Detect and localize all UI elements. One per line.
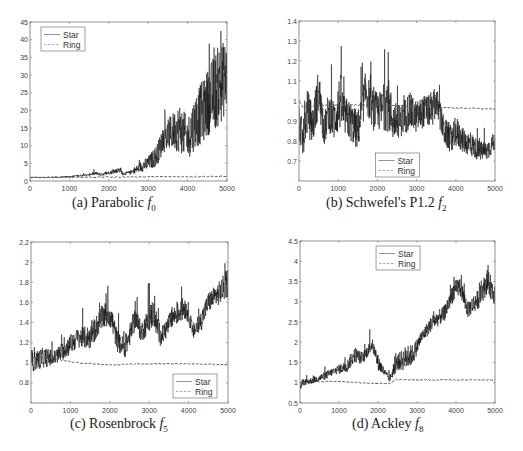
- svg-text:0.8: 0.8: [287, 138, 297, 145]
- chart-panel-b: 0100020003000400050000.70.80.911.11.21.3…: [299, 21, 495, 181]
- svg-text:0.9: 0.9: [287, 118, 297, 125]
- svg-text:5000: 5000: [487, 185, 503, 192]
- svg-text:1.1: 1.1: [287, 78, 297, 85]
- caption-d: (d) Ackley f8: [352, 416, 423, 434]
- svg-text:2.2: 2.2: [19, 239, 29, 246]
- svg-text:2000: 2000: [101, 185, 117, 192]
- svg-text:0: 0: [29, 407, 33, 414]
- svg-text:2000: 2000: [370, 407, 386, 414]
- caption-b-sub: 2: [442, 203, 447, 213]
- svg-text:3: 3: [294, 298, 298, 305]
- caption-d-sub: 8: [419, 424, 424, 434]
- svg-text:0: 0: [298, 407, 302, 414]
- svg-text:0.5: 0.5: [288, 400, 298, 407]
- svg-text:0: 0: [297, 185, 301, 192]
- svg-text:1.2: 1.2: [19, 339, 29, 346]
- svg-text:4000: 4000: [181, 407, 197, 414]
- svg-text:10: 10: [20, 142, 28, 149]
- chart-c-svg: 0100020003000400050000.811.21.41.61.822.…: [31, 242, 228, 403]
- svg-text:30: 30: [20, 72, 28, 79]
- caption-c: (c) Rosenbrock f5: [70, 416, 168, 434]
- series-ring-line: [300, 379, 495, 384]
- caption-a-text: (a) Parabolic: [72, 195, 147, 210]
- series-star-line: [31, 263, 228, 371]
- svg-text:3000: 3000: [409, 185, 425, 192]
- svg-text:2000: 2000: [102, 407, 118, 414]
- svg-text:2: 2: [294, 339, 298, 346]
- svg-text:3000: 3000: [140, 185, 156, 192]
- svg-text:5: 5: [24, 160, 28, 167]
- chart-b-svg: 0100020003000400050000.70.80.911.11.21.3…: [299, 21, 495, 181]
- svg-text:5000: 5000: [487, 407, 503, 414]
- svg-text:4000: 4000: [180, 185, 196, 192]
- svg-text:1: 1: [25, 359, 29, 366]
- svg-text:35: 35: [20, 54, 28, 61]
- svg-text:Ring: Ring: [397, 166, 415, 176]
- svg-text:2: 2: [25, 259, 29, 266]
- svg-text:1.4: 1.4: [287, 18, 297, 25]
- svg-text:5000: 5000: [220, 407, 236, 414]
- series-star-line: [299, 46, 495, 159]
- chart-d-legend: StarRing: [376, 246, 420, 270]
- svg-text:4000: 4000: [448, 185, 464, 192]
- svg-text:1000: 1000: [330, 185, 346, 192]
- svg-text:3000: 3000: [141, 407, 157, 414]
- caption-c-text: (c) Rosenbrock: [70, 416, 159, 431]
- svg-text:20: 20: [20, 107, 28, 114]
- svg-text:0: 0: [24, 178, 28, 185]
- series-star-line: [30, 31, 227, 178]
- chart-b-legend: StarRing: [375, 153, 419, 177]
- svg-text:1.2: 1.2: [287, 58, 297, 65]
- svg-text:Star: Star: [398, 249, 414, 259]
- chart-c-legend: StarRing: [173, 374, 217, 398]
- svg-text:0.8: 0.8: [19, 379, 29, 386]
- caption-d-text: (d) Ackley: [352, 416, 415, 431]
- svg-text:1000: 1000: [331, 407, 347, 414]
- caption-a: (a) Parabolic f0: [72, 195, 156, 213]
- svg-text:0.7: 0.7: [287, 158, 297, 165]
- svg-text:Ring: Ring: [63, 40, 81, 50]
- series-star-line: [300, 265, 495, 389]
- svg-text:Ring: Ring: [398, 259, 416, 269]
- chart-d-svg: 0100020003000400050000.511.522.533.544.5…: [300, 241, 495, 403]
- svg-text:1000: 1000: [63, 407, 79, 414]
- svg-text:3.5: 3.5: [288, 278, 298, 285]
- svg-text:15: 15: [20, 125, 28, 132]
- caption-b: (b) Schwefel's P1.2 f2: [326, 195, 447, 213]
- svg-text:Ring: Ring: [195, 387, 213, 397]
- svg-text:Star: Star: [195, 377, 211, 387]
- caption-c-sub: 5: [163, 424, 168, 434]
- svg-text:1.4: 1.4: [19, 319, 29, 326]
- chart-panel-c: 0100020003000400050000.811.21.41.61.822.…: [31, 242, 228, 403]
- svg-text:2000: 2000: [370, 185, 386, 192]
- chart-a-svg: 010002000300040005000051015202530354045S…: [30, 22, 227, 181]
- svg-text:2.5: 2.5: [288, 319, 298, 326]
- series-ring-line: [30, 176, 227, 178]
- svg-text:1.8: 1.8: [19, 279, 29, 286]
- svg-text:1: 1: [294, 379, 298, 386]
- svg-text:1.3: 1.3: [287, 38, 297, 45]
- chart-panel-d: 0100020003000400050000.511.522.533.544.5…: [300, 241, 495, 403]
- svg-text:1: 1: [293, 98, 297, 105]
- svg-text:1000: 1000: [62, 185, 78, 192]
- caption-b-text: (b) Schwefel's P1.2: [326, 195, 438, 210]
- svg-text:25: 25: [20, 89, 28, 96]
- svg-text:1.6: 1.6: [19, 299, 29, 306]
- svg-text:4: 4: [294, 258, 298, 265]
- svg-text:Star: Star: [397, 156, 413, 166]
- caption-a-sub: 0: [151, 203, 156, 213]
- svg-text:Star: Star: [63, 30, 79, 40]
- svg-text:0: 0: [28, 185, 32, 192]
- svg-text:40: 40: [20, 36, 28, 43]
- svg-text:3000: 3000: [409, 407, 425, 414]
- chart-panel-a: 010002000300040005000051015202530354045S…: [30, 22, 227, 181]
- svg-text:5000: 5000: [219, 185, 235, 192]
- svg-text:45: 45: [20, 19, 28, 26]
- chart-a-legend: StarRing: [41, 27, 85, 51]
- svg-text:4.5: 4.5: [288, 238, 298, 245]
- svg-text:4000: 4000: [448, 407, 464, 414]
- svg-text:1.5: 1.5: [288, 359, 298, 366]
